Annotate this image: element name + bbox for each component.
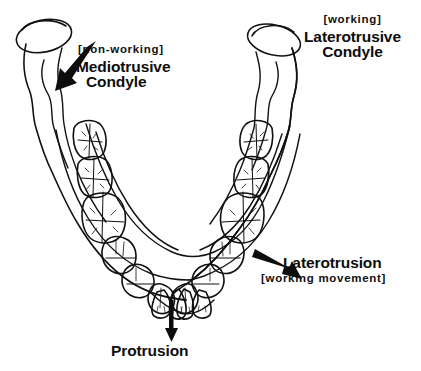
laterotrusion-line1: Laterotrusion (283, 255, 386, 271)
label-laterotrusive-condyle: [working] Laterotrusive Condyle (304, 14, 401, 59)
tooth-incisor-right-lateral (192, 290, 211, 318)
left-teeth (73, 121, 174, 314)
mediotrusive-line2: Condyle (76, 74, 170, 90)
laterotrusion-bracket-text: [working movement] (261, 273, 386, 285)
right-teeth (171, 121, 272, 314)
label-protrusion: Protrusion (111, 343, 188, 359)
mediotrusive-bracket-text: [non-working] (76, 44, 170, 56)
protrusion-line1: Protrusion (111, 343, 188, 359)
tooth-left-molar-3 (73, 121, 106, 160)
right-condyle-head (244, 19, 304, 61)
mandible-diagram: [non-working] Mediotrusive Condyle [work… (0, 0, 421, 371)
left-condyle-head (13, 15, 74, 58)
tooth-right-molar-2 (234, 157, 269, 198)
laterotrusive-line2: Condyle (304, 44, 401, 60)
laterotrusive-bracket-text: [working] (304, 14, 401, 26)
tooth-left-molar-1 (82, 192, 125, 243)
right-ramus-inner (210, 52, 278, 224)
label-mediotrusive-condyle: [non-working] Mediotrusive Condyle (76, 44, 170, 89)
label-laterotrusion: Laterotrusion [working movement] (283, 255, 386, 285)
tooth-right-molar-3 (240, 121, 273, 160)
